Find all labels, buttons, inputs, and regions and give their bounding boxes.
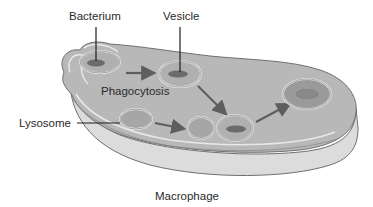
bacterium-2 — [168, 71, 188, 78]
lysosome-label: Lysosome — [19, 118, 71, 130]
macrophage-phagocytosis-diagram: Bacterium Vesicle Phagocytosis Lysosome … — [0, 0, 373, 207]
phagocytosis-label: Phagocytosis — [101, 86, 169, 98]
macrophage-label: Macrophage — [155, 191, 219, 203]
vesicle-label: Vesicle — [163, 11, 199, 23]
bacterium-3 — [226, 126, 246, 133]
cell-illustration — [0, 0, 373, 207]
bacterium-label: Bacterium — [69, 11, 121, 23]
digested-bacterium — [296, 90, 318, 99]
